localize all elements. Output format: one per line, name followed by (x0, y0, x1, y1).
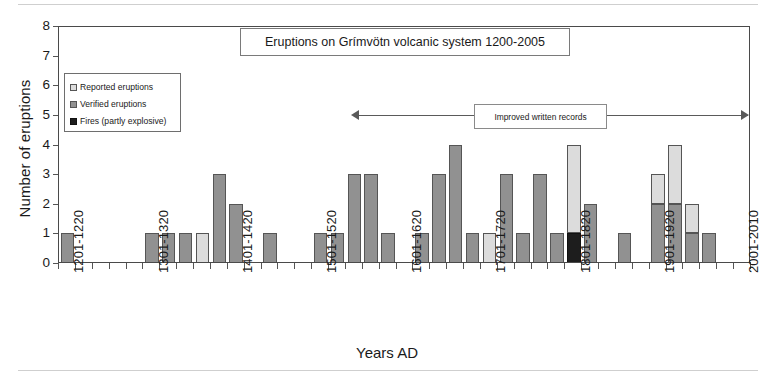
bar-segment-verified (550, 233, 564, 263)
y-tick-label-8: 8 (22, 19, 50, 33)
x-tick-mark-40 (733, 263, 734, 269)
x-tick-mark-24 (463, 263, 464, 269)
bar-1761-1780 (533, 174, 547, 263)
chart-legend: Reported eruptions Verified eruptions Fi… (64, 73, 181, 132)
x-tick-mark-23 (446, 263, 447, 269)
x-tick-mark-39 (716, 263, 717, 269)
y-tick-label-3: 3 (22, 167, 50, 181)
chart-title-box: Eruptions on Grímvötn volcanic system 12… (240, 28, 570, 56)
bar-1741-1760 (516, 233, 530, 263)
bar-segment-reported (196, 233, 210, 263)
page-rule-bottom (18, 370, 758, 371)
x-tick-label-1801-1820: 1801-1820 (578, 210, 593, 273)
chart-title: Eruptions on Grímvötn volcanic system 12… (265, 35, 545, 49)
bar-segment-verified (702, 233, 716, 263)
bar-1961-1980 (702, 233, 716, 263)
x-tick-mark-37 (682, 263, 683, 269)
bar-segment-verified (364, 174, 378, 263)
x-tick-mark-3 (109, 263, 110, 269)
bar-segment-verified (466, 233, 480, 263)
legend-swatch-fires-icon (70, 118, 77, 125)
legend-item-fires: Fires (partly explosive) (70, 113, 180, 129)
y-tick-label-0: 0 (22, 256, 50, 270)
annotation-label: Improved written records (494, 112, 586, 122)
x-tick-mark-15 (311, 263, 312, 269)
bar-1381-1400 (213, 174, 227, 263)
x-tick-mark-0 (58, 263, 59, 269)
legend-item-verified: Verified eruptions (70, 96, 180, 112)
x-tick-mark-34 (632, 263, 633, 269)
x-tick-mark-8 (193, 263, 194, 269)
x-tick-mark-35 (649, 263, 650, 269)
legend-label-reported: Reported eruptions (80, 83, 153, 92)
bar-segment-verified (213, 174, 227, 263)
x-tick-mark-13 (277, 263, 278, 269)
bar-segment-verified (348, 174, 362, 263)
bar-1581-1600 (381, 233, 395, 263)
bar-segment-reported (651, 174, 665, 204)
legend-item-reported: Reported eruptions (70, 79, 180, 95)
x-tick-mark-2 (92, 263, 93, 269)
x-tick-mark-25 (480, 263, 481, 269)
bar-1641-1660 (432, 174, 446, 263)
x-tick-mark-33 (615, 263, 616, 269)
y-tick-label-7: 7 (22, 49, 50, 63)
x-tick-mark-32 (598, 263, 599, 269)
chart-figure: Number of eruptions 012345678 1201-12201… (0, 0, 774, 376)
bar-1561-1580 (364, 174, 378, 263)
bar-segment-verified (179, 233, 193, 263)
x-tick-mark-30 (564, 263, 565, 269)
y-tick-label-4: 4 (22, 138, 50, 152)
bar-segment-reported (668, 145, 682, 204)
x-tick-mark-18 (362, 263, 363, 269)
y-tick-label-5: 5 (22, 108, 50, 122)
annotation-box: Improved written records (474, 104, 607, 129)
bar-segment-verified (449, 145, 463, 264)
arrow-left-icon (351, 110, 359, 120)
bar-1541-1560 (348, 174, 362, 263)
bar-1941-1960 (685, 204, 699, 263)
legend-swatch-verified-icon (70, 101, 77, 108)
x-tick-mark-14 (294, 263, 295, 269)
bar-1361-1380 (196, 233, 210, 263)
bar-segment-verified (432, 174, 446, 263)
bar-segment-verified (381, 233, 395, 263)
x-tick-mark-20 (396, 263, 397, 269)
y-tick-label-1: 1 (22, 226, 50, 240)
x-tick-mark-4 (126, 263, 127, 269)
x-tick-mark-22 (429, 263, 430, 269)
bar-1861-1880 (618, 233, 632, 263)
x-tick-mark-17 (345, 263, 346, 269)
x-tick-label-1201-1220: 1201-1220 (71, 210, 86, 273)
page-rule-top (18, 4, 758, 5)
x-axis-title: Years AD (0, 344, 774, 361)
x-tick-label-1501-1520: 1501-1520 (324, 210, 339, 273)
x-tick-label-1901-1920: 1901-1920 (662, 210, 677, 273)
x-tick-mark-10 (227, 263, 228, 269)
bar-1681-1700 (466, 233, 480, 263)
x-tick-label-2001-2010: 2001-2010 (746, 210, 761, 273)
legend-swatch-reported-icon (70, 84, 77, 91)
x-tick-mark-38 (699, 263, 700, 269)
x-tick-label-1301-1320: 1301-1320 (156, 210, 171, 273)
bar-segment-verified (263, 233, 277, 263)
x-tick-mark-5 (142, 263, 143, 269)
x-tick-mark-7 (176, 263, 177, 269)
x-tick-mark-12 (261, 263, 262, 269)
y-tick-label-2: 2 (22, 197, 50, 211)
x-tick-mark-19 (379, 263, 380, 269)
bar-segment-reported (685, 204, 699, 234)
bar-segment-verified (533, 174, 547, 263)
x-tick-mark-27 (514, 263, 515, 269)
x-tick-mark-28 (531, 263, 532, 269)
legend-label-verified: Verified eruptions (80, 100, 146, 109)
y-tick-label-6: 6 (22, 78, 50, 92)
x-tick-label-1601-1620: 1601-1620 (409, 210, 424, 273)
x-tick-mark-29 (547, 263, 548, 269)
arrow-right-icon (741, 110, 749, 120)
bar-1781-1800 (550, 233, 564, 263)
x-tick-label-1401-1420: 1401-1420 (240, 210, 255, 273)
bar-1341-1360 (179, 233, 193, 263)
x-tick-mark-9 (210, 263, 211, 269)
legend-label-fires: Fires (partly explosive) (80, 117, 166, 126)
